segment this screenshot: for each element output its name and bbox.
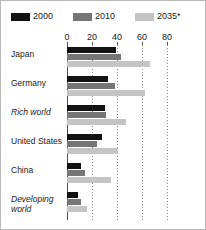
chart-legend: 2000 2010 2035* bbox=[11, 10, 181, 23]
bar bbox=[67, 112, 106, 118]
y-axis-category-labels: JapanGermanyRich worldUnited StatesChina… bbox=[1, 45, 67, 220]
x-axis-tick-label: 0 bbox=[64, 32, 69, 42]
x-axis-tick-labels: 020406080 bbox=[67, 32, 197, 43]
bar bbox=[67, 199, 81, 205]
bar-group bbox=[67, 163, 197, 183]
legend-swatch-2000 bbox=[11, 13, 30, 21]
category-label: China bbox=[11, 166, 67, 176]
bar bbox=[67, 141, 97, 147]
category-label: Germany bbox=[11, 79, 67, 89]
legend-item-2035: 2035* bbox=[135, 10, 181, 23]
bar bbox=[67, 163, 81, 169]
bar bbox=[67, 54, 121, 60]
bar bbox=[67, 105, 105, 111]
bar bbox=[67, 47, 116, 53]
legend-label-2000: 2000 bbox=[33, 12, 53, 21]
bar bbox=[67, 148, 118, 154]
bar bbox=[67, 206, 87, 212]
legend-item-2000: 2000 bbox=[11, 10, 53, 23]
bar-group bbox=[67, 47, 197, 67]
bar bbox=[67, 192, 78, 198]
legend-swatch-2035 bbox=[135, 13, 154, 21]
x-axis-tick-label: 80 bbox=[162, 32, 172, 42]
bar-group bbox=[67, 105, 197, 125]
bar bbox=[67, 134, 102, 140]
bar bbox=[67, 61, 150, 67]
plot-area bbox=[67, 45, 197, 220]
bar-group bbox=[67, 192, 197, 212]
legend-item-2010: 2010 bbox=[73, 10, 115, 23]
category-label: Japan bbox=[11, 50, 67, 60]
x-axis-tick-label: 20 bbox=[87, 32, 97, 42]
bar bbox=[67, 119, 126, 125]
category-label: Developing world bbox=[11, 195, 67, 214]
bar bbox=[67, 90, 145, 96]
x-axis-tick-label: 60 bbox=[137, 32, 147, 42]
bar bbox=[67, 170, 85, 176]
bar bbox=[67, 177, 111, 183]
category-label: Rich world bbox=[11, 108, 67, 118]
category-label: United States bbox=[11, 137, 67, 147]
legend-swatch-2010 bbox=[73, 13, 92, 21]
legend-label-2010: 2010 bbox=[95, 12, 115, 21]
bar bbox=[67, 83, 115, 89]
chart-figure: 2000 2010 2035* 020406080 JapanGermanyRi… bbox=[0, 0, 206, 230]
bar bbox=[67, 76, 108, 82]
x-axis-tick-label: 40 bbox=[112, 32, 122, 42]
legend-label-2035: 2035* bbox=[157, 12, 181, 21]
bar-group bbox=[67, 134, 197, 154]
bar-group bbox=[67, 76, 197, 96]
